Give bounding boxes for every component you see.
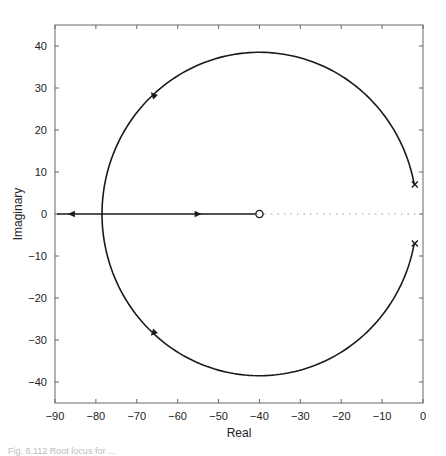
upper-locus-branch	[102, 52, 414, 214]
y-tick-label: 30	[35, 82, 47, 94]
x-tick-label: −30	[291, 410, 310, 422]
plot-area	[57, 52, 423, 375]
arrow-left-icon	[68, 211, 75, 217]
x-tick-label: −40	[250, 410, 269, 422]
zero-marker	[256, 210, 263, 217]
y-tick-label: −20	[28, 292, 47, 304]
figure-caption: Fig. 6.112 Root locus for ...	[8, 446, 115, 456]
x-tick-label: −10	[373, 410, 392, 422]
y-tick-label: −10	[28, 250, 47, 262]
root-locus-chart: −90−80−70−60−50−40−30−20−100 403020100−1…	[0, 0, 446, 456]
x-tick-label: −20	[332, 410, 351, 422]
y-tick-label: −40	[28, 376, 47, 388]
lower-locus-branch	[102, 214, 414, 376]
x-axis-label: Real	[227, 426, 252, 440]
x-tick-label: −60	[168, 410, 187, 422]
y-tick-labels: 403020100−10−20−30−40	[28, 40, 47, 388]
x-tick-label: 0	[420, 410, 426, 422]
x-tick-label: −70	[127, 410, 146, 422]
y-tick-label: 40	[35, 40, 47, 52]
x-tick-label: −90	[46, 410, 65, 422]
y-tick-label: 0	[41, 208, 47, 220]
x-tick-label: −50	[209, 410, 228, 422]
y-tick-label: 10	[35, 166, 47, 178]
x-tick-labels: −90−80−70−60−50−40−30−20−100	[46, 410, 426, 422]
y-tick-label: 20	[35, 124, 47, 136]
y-tick-label: −30	[28, 334, 47, 346]
arrow-right-icon	[195, 211, 202, 217]
y-axis-label: Imaginary	[11, 188, 25, 241]
x-tick-label: −80	[87, 410, 106, 422]
